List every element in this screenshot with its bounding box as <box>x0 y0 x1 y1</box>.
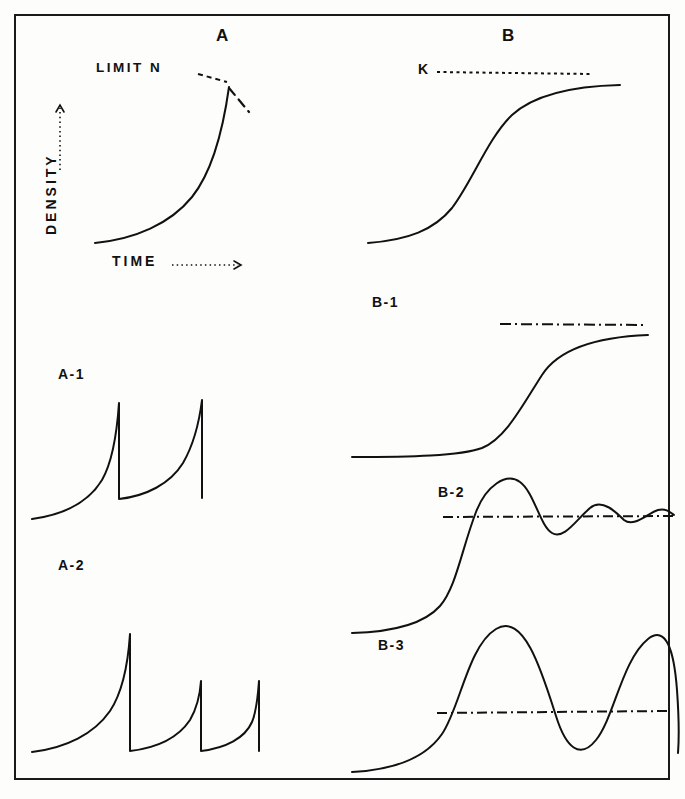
y-axis-label: DENSITY <box>43 153 59 235</box>
carrying-capacity-label: K <box>418 61 429 77</box>
population-growth-figure: A B LIMIT N K DENSITY TIME B-1 A-1 B-2 A… <box>0 0 685 799</box>
panel-title-b: B <box>502 26 515 46</box>
panel-title-b3: B-3 <box>378 637 405 653</box>
panel-title-b2: B-2 <box>438 484 465 500</box>
panel-title-a2: A-2 <box>58 557 85 573</box>
limit-n-label: LIMIT N <box>96 60 162 75</box>
figure-border <box>14 14 670 780</box>
panel-title-b1: B-1 <box>372 294 399 310</box>
panel-title-a: A <box>216 26 229 46</box>
panel-title-a1: A-1 <box>58 366 85 382</box>
x-axis-label: TIME <box>112 253 157 269</box>
